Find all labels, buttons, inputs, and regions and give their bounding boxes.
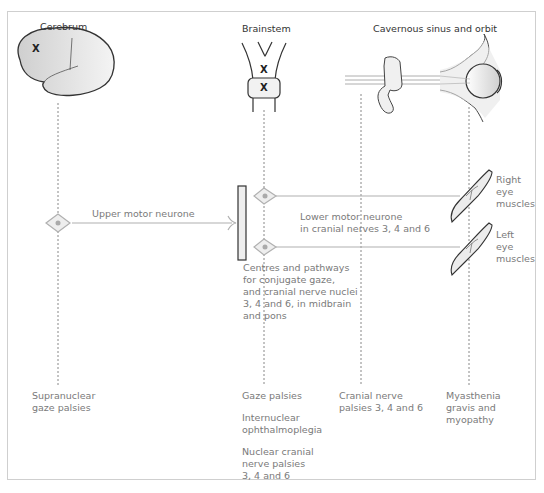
label-lower-motor-neurone-2: in cranial nerves 3, 4 and 6: [300, 223, 430, 235]
header-cavernous-sinus-orbit: Cavernous sinus and orbit: [373, 23, 497, 34]
label-right-eye-1: Right: [496, 174, 521, 186]
disorder-nuclear-1: Nuclear cranial: [242, 446, 314, 458]
eye-orbit-icon: [440, 34, 502, 122]
lower-motor-neurone-lower: [254, 239, 460, 255]
label-centres-4: 3, 4 and 6, in midbrain: [243, 298, 351, 310]
gaze-centre-bar: [238, 186, 246, 260]
label-centres-3: and cranial nerve nuclei: [243, 286, 358, 298]
disorder-nuclear-2: nerve palsies: [242, 458, 305, 470]
label-left-eye-2: eye: [496, 241, 513, 253]
disorder-myasthenia-2: gravis and: [446, 402, 496, 414]
label-right-eye-2: eye: [496, 186, 513, 198]
disorder-gaze-palsies: Gaze palsies: [242, 390, 302, 402]
disorder-myasthenia-3: myopathy: [446, 414, 494, 426]
label-centres-2: for conjugate gaze,: [243, 274, 335, 286]
disorder-nuclear-3: 3, 4 and 6: [242, 470, 290, 482]
lesion-mark-cerebrum: X: [32, 43, 40, 54]
label-left-eye-1: Left: [496, 229, 514, 241]
header-cerebrum: Cerebrum: [40, 21, 87, 32]
cerebrum-icon: [18, 28, 114, 96]
left-eye-muscle-icon: [451, 223, 492, 275]
disorder-myasthenia-1: Myasthenia: [446, 390, 501, 402]
disorder-cranial-nerve-2: palsies 3, 4 and 6: [339, 402, 423, 414]
disorder-supranuclear-1: Supranuclear: [32, 390, 95, 402]
label-upper-motor-neurone: Upper motor neurone: [92, 208, 195, 220]
brainstem-icon: [242, 42, 286, 112]
header-brainstem: Brainstem: [242, 23, 291, 34]
cavernous-sinus-icon: [345, 57, 440, 113]
label-lower-motor-neurone-1: Lower motor neurone: [300, 211, 402, 223]
label-right-eye-3: muscles: [496, 198, 535, 210]
label-centres-1: Centres and pathways: [243, 262, 349, 274]
disorder-internuclear-2: ophthalmoplegia: [242, 424, 322, 436]
disorder-internuclear-1: Internuclear: [242, 412, 300, 424]
disorder-cranial-nerve-1: Cranial nerve: [339, 390, 403, 402]
label-centres-5: and pons: [243, 310, 287, 322]
lower-motor-neurone-upper: [254, 188, 460, 204]
lesion-mark-brainstem-lower: X: [260, 82, 268, 93]
lesion-mark-brainstem-upper: X: [260, 64, 268, 75]
disorder-supranuclear-2: gaze palsies: [32, 402, 91, 414]
label-left-eye-3: muscles: [496, 253, 535, 265]
